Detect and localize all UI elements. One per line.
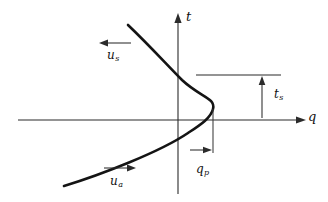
- q-axis: [18, 116, 306, 123]
- qp-measure-arrow: [190, 147, 212, 153]
- s-curve-path: [64, 25, 213, 186]
- qp-label: qp: [196, 163, 209, 177]
- us-direction-arrow: [99, 40, 131, 47]
- q-axis-label: q: [308, 110, 316, 123]
- ua-label-symbol: u: [110, 174, 118, 188]
- us-arrowhead-icon: [99, 40, 108, 47]
- ts-arrowhead-icon: [259, 76, 266, 85]
- ua-label: ua: [110, 175, 123, 189]
- qp-arrowhead-icon: [203, 147, 212, 153]
- ua-label-subscript: a: [118, 180, 123, 189]
- qp-label-subscript: p: [204, 168, 210, 177]
- ts-label: ts: [274, 88, 283, 102]
- us-label: us: [107, 49, 119, 63]
- t-axis: [174, 13, 181, 194]
- t-axis-label: t: [186, 10, 191, 23]
- qp-label-symbol: q: [196, 162, 204, 176]
- us-label-subscript: s: [115, 54, 120, 63]
- ts-label-subscript: s: [279, 93, 284, 102]
- t-axis-arrowhead-icon: [174, 13, 181, 23]
- us-label-symbol: u: [107, 48, 115, 62]
- figure-container: t q us ua ts qp: [0, 0, 328, 202]
- q-axis-arrowhead-icon: [296, 116, 306, 123]
- ts-measure-arrow: [259, 76, 266, 118]
- ua-arrowhead-icon: [127, 165, 136, 172]
